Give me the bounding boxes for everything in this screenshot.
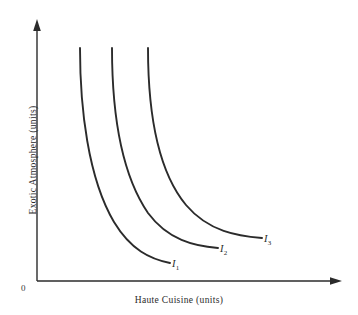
arrow-right-icon: [330, 277, 342, 285]
curve-i1: [80, 48, 170, 263]
curve-label-i2: I2: [220, 243, 227, 254]
indifference-curve-figure: I1 I2 I3 0 Haute Cuisine (units) Exotic …: [0, 0, 358, 315]
plot-area: [0, 0, 358, 315]
curve-i3: [148, 48, 262, 238]
indifference-curves: [80, 48, 262, 263]
y-axis-title: Exotic Atmosphere (units): [28, 65, 38, 255]
curve-i2: [112, 48, 218, 248]
origin-label: 0: [21, 283, 26, 293]
curve-label-i1: I1: [172, 258, 179, 269]
arrow-up-icon: [33, 19, 41, 31]
curve-label-i3: I3: [264, 233, 271, 244]
x-axis-title: Haute Cuisine (units): [0, 295, 358, 305]
